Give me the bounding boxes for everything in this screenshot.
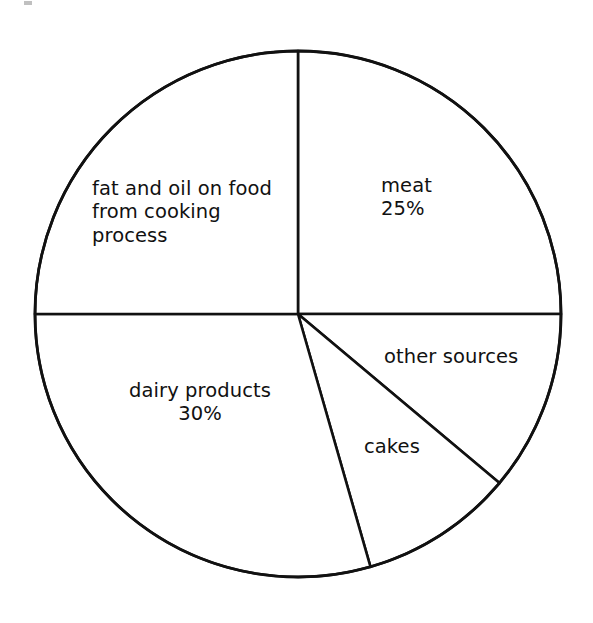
slice-label-dairy-products: dairy products 30%	[105, 379, 295, 426]
pie-chart-graphic	[0, 0, 593, 623]
slice-label-meat: meat 25%	[381, 174, 521, 221]
pie-chart-figure: fat and oil on food from cooking process…	[0, 0, 593, 623]
pie-wedge-group	[35, 51, 561, 577]
slice-label-cakes: cakes	[364, 435, 464, 458]
slice-label-other-sources: other sources	[384, 345, 564, 368]
slice-label-fat-and-oil: fat and oil on food from cooking process	[92, 177, 322, 247]
